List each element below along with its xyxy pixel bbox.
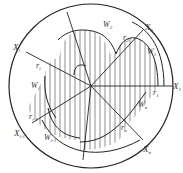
label-w1: W1 xyxy=(147,47,156,57)
label-xi: Xi xyxy=(12,42,21,53)
ray-xi-1 xyxy=(32,86,91,123)
label-rn: rn xyxy=(121,123,127,133)
label-w2: W2 xyxy=(103,20,113,30)
label-wn: Wn xyxy=(138,100,148,110)
label-x2: X2 xyxy=(144,22,154,33)
label-ri: ri xyxy=(36,61,41,71)
labels: X1 X2 Xi Xi-1 Xn W1 W2 Wi Wi-1 Wn r1 r2 … xyxy=(12,20,181,155)
sector-diagram: X1 X2 Xi Xi-1 Xn W1 W2 Wi Wi-1 Wn r1 r2 … xyxy=(0,0,183,173)
label-r2: r2 xyxy=(123,33,129,43)
label-x1: X1 xyxy=(172,81,181,92)
label-wi: Wi xyxy=(31,81,40,91)
label-ri-1: ri-1 xyxy=(29,112,38,122)
label-xi-1: Xi-1 xyxy=(13,128,25,139)
label-r1: r1 xyxy=(153,88,159,98)
label-xn: Xn xyxy=(142,144,152,155)
label-wi-1: Wi-1 xyxy=(44,133,56,143)
curve-w2 xyxy=(58,30,116,54)
ring-arc-lower xyxy=(42,120,140,152)
